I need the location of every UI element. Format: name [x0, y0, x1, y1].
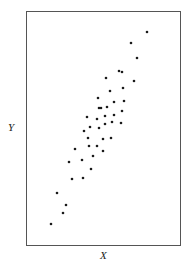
data-point [96, 118, 99, 121]
data-point [104, 123, 107, 126]
data-point [130, 42, 133, 45]
data-point [56, 192, 59, 195]
data-point [118, 70, 121, 73]
data-point [106, 106, 109, 109]
data-point [109, 90, 112, 93]
x-axis-label: X [100, 249, 107, 261]
data-point [92, 155, 95, 158]
data-point [113, 114, 116, 117]
data-point [83, 130, 86, 133]
data-point [97, 97, 100, 100]
data-point [65, 204, 68, 207]
data-point [50, 223, 53, 226]
data-point [123, 100, 126, 103]
data-point [122, 87, 125, 90]
y-axis-label: Y [8, 121, 14, 133]
data-point [89, 126, 92, 129]
data-point [90, 168, 93, 171]
data-point [120, 122, 123, 125]
data-point [96, 145, 99, 148]
data-point [111, 121, 114, 124]
data-point [113, 101, 116, 104]
data-point [110, 137, 113, 140]
data-point [98, 127, 101, 130]
data-point [87, 137, 90, 140]
data-point [102, 138, 105, 141]
data-point [71, 178, 74, 181]
data-points [50, 31, 149, 226]
data-point [86, 116, 89, 119]
data-point [133, 80, 136, 83]
data-point [105, 77, 108, 80]
data-point [88, 145, 91, 148]
data-point [104, 115, 107, 118]
plot-frame [27, 12, 181, 246]
data-point [121, 110, 124, 113]
data-point [82, 177, 85, 180]
data-point [102, 150, 105, 153]
data-point [68, 161, 71, 164]
data-point [146, 31, 149, 34]
data-point [81, 159, 84, 162]
data-point [62, 212, 65, 215]
data-point [121, 71, 124, 74]
data-point [136, 57, 139, 60]
data-point [74, 148, 77, 151]
data-point [100, 107, 103, 110]
scatter-plot [0, 0, 189, 274]
